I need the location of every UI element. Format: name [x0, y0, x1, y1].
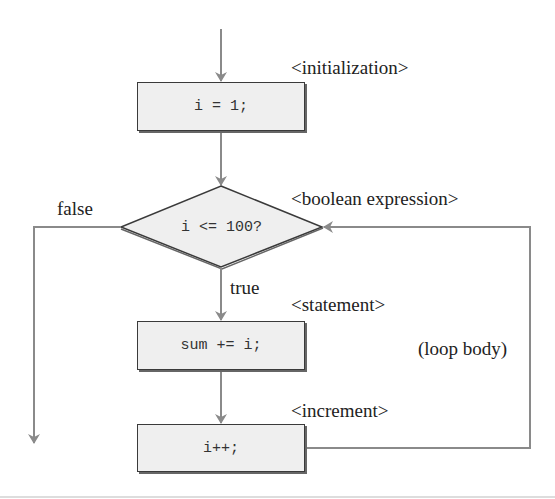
init-code: i = 1; — [137, 99, 305, 114]
statement-annotation: <statement> — [291, 295, 385, 314]
false-branch-arrow — [34, 227, 121, 443]
true-edge-label: true — [230, 278, 260, 297]
increment-code: i++; — [137, 441, 305, 456]
statement-code: sum += i; — [137, 338, 305, 353]
increment-annotation: <increment> — [291, 401, 388, 420]
boolean-expression-annotation: <boolean expression> — [291, 189, 459, 208]
condition-code: i <= 100? — [121, 220, 322, 235]
initialization-annotation: <initialization> — [291, 58, 408, 77]
false-edge-label: false — [57, 199, 93, 218]
loop-body-annotation: (loop body) — [418, 339, 507, 358]
